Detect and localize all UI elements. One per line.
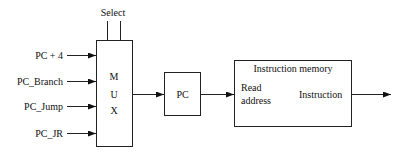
read-address-label-line2: address [241, 95, 271, 106]
read-address-label-line1: Read [241, 82, 262, 93]
instruction-memory-title: Instruction memory [253, 63, 332, 74]
mux-input-pc-jr: PC_JR [35, 128, 96, 139]
input-label: PC_Branch [17, 76, 63, 87]
mux-letter-x: X [110, 105, 118, 116]
input-label: PC_JR [35, 128, 63, 139]
datapath-diagram: Select M U X PC + 4 PC_Branch PC_Jump PC… [0, 0, 402, 153]
mux-input-pc-jump: PC_Jump [24, 101, 96, 112]
input-label: PC + 4 [35, 50, 63, 61]
pc-label: PC [176, 89, 189, 100]
mux-letter-u: U [110, 89, 118, 100]
mux-input-pc-plus-4: PC + 4 [35, 50, 96, 61]
select-label: Select [101, 7, 126, 18]
instruction-output-label: Instruction [299, 89, 342, 100]
mux-input-pc-branch: PC_Branch [17, 76, 96, 87]
input-label: PC_Jump [24, 101, 63, 112]
mux-letter-m: M [110, 71, 119, 82]
